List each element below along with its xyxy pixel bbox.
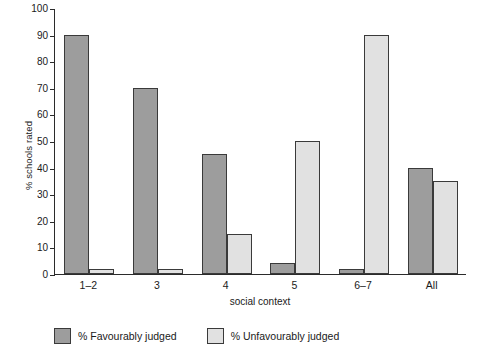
bar-favourable xyxy=(202,154,227,274)
y-tick-label: 20 xyxy=(14,217,48,227)
legend-label: % Unfavourably judged xyxy=(231,330,340,342)
bar-chart-figure: % schools rated 0102030405060708090100 1… xyxy=(0,0,481,359)
bar-unfavourable xyxy=(227,234,252,274)
bar-unfavourable xyxy=(364,35,389,274)
bar-group xyxy=(398,9,467,274)
legend-item: % Favourably judged xyxy=(54,328,177,344)
y-tick-mark xyxy=(50,142,55,143)
y-tick-label: 60 xyxy=(14,110,48,120)
plot-area xyxy=(54,9,466,275)
y-tick-label: 30 xyxy=(14,190,48,200)
bar-favourable xyxy=(133,88,158,274)
x-tick-label: 3 xyxy=(154,279,160,292)
bar-favourable xyxy=(339,269,364,274)
x-axis-tick-labels: 1–23456–7All xyxy=(54,279,466,295)
bar-favourable xyxy=(64,35,89,274)
x-axis-label: social context xyxy=(54,296,466,307)
chart-legend: % Favourably judged% Unfavourably judged xyxy=(54,325,466,347)
y-tick-mark xyxy=(50,275,55,276)
y-tick-mark xyxy=(50,169,55,170)
y-axis-tick-labels: 0102030405060708090100 xyxy=(14,9,48,275)
y-tick-mark xyxy=(50,62,55,63)
bar-series-container xyxy=(55,9,466,274)
bar-group xyxy=(124,9,193,274)
bar-group xyxy=(261,9,330,274)
legend-swatch-fav xyxy=(54,328,71,344)
legend-item: % Unfavourably judged xyxy=(207,328,340,344)
legend-label: % Favourably judged xyxy=(78,330,177,342)
y-tick-label: 0 xyxy=(14,270,48,280)
y-tick-mark xyxy=(50,222,55,223)
y-tick-mark xyxy=(50,195,55,196)
bar-unfavourable xyxy=(89,269,114,274)
x-tick-label: 6–7 xyxy=(354,279,372,292)
bar-unfavourable xyxy=(158,269,183,274)
y-tick-mark xyxy=(50,36,55,37)
y-tick-label: 10 xyxy=(14,243,48,253)
bar-favourable xyxy=(270,263,295,274)
bar-group xyxy=(192,9,261,274)
y-tick-mark xyxy=(50,9,55,10)
y-tick-label: 100 xyxy=(14,4,48,14)
x-tick-label: 4 xyxy=(223,279,229,292)
y-tick-label: 80 xyxy=(14,57,48,67)
y-tick-label: 40 xyxy=(14,164,48,174)
bar-unfavourable xyxy=(295,141,320,274)
x-tick-label: All xyxy=(426,279,438,292)
y-tick-label: 70 xyxy=(14,84,48,94)
x-tick-label: 5 xyxy=(291,279,297,292)
y-tick-mark xyxy=(50,115,55,116)
bar-favourable xyxy=(408,168,433,274)
bar-group xyxy=(330,9,399,274)
bar-unfavourable xyxy=(433,181,458,274)
y-tick-label: 50 xyxy=(14,137,48,147)
x-tick-label: 1–2 xyxy=(80,279,98,292)
bar-group xyxy=(55,9,124,274)
y-tick-mark xyxy=(50,89,55,90)
y-tick-mark xyxy=(50,248,55,249)
y-tick-label: 90 xyxy=(14,31,48,41)
legend-swatch-unfav xyxy=(207,328,224,344)
